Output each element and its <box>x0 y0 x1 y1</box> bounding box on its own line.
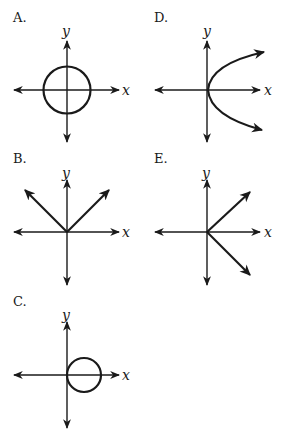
x-axis-label: x <box>122 367 130 383</box>
option-b-label: B. <box>13 151 27 166</box>
sideways-v-lower-ray <box>207 232 250 275</box>
y-axis-label: y <box>61 307 71 323</box>
sideways-v-upper-ray <box>207 192 250 232</box>
option-c-graph: C. x y <box>13 294 130 428</box>
y-axis-label: y <box>61 23 71 39</box>
v-right-ray <box>67 190 109 232</box>
y-axis-label: y <box>202 23 212 39</box>
option-d-label: D. <box>154 10 168 25</box>
graph-options-figure: A. x y D. x y B. x y E. x y C. <box>0 0 284 445</box>
option-a-label: A. <box>12 10 27 25</box>
parabola-upper-branch <box>208 52 264 90</box>
x-axis-label: x <box>264 82 272 98</box>
option-c-label: C. <box>13 294 27 309</box>
y-axis-label: y <box>61 165 71 181</box>
v-left-ray <box>25 190 67 232</box>
x-axis-label: x <box>122 224 130 240</box>
x-axis-label: x <box>264 224 272 240</box>
option-d-graph: D. x y <box>154 10 272 142</box>
parabola-lower-branch <box>208 90 262 130</box>
x-axis-label: x <box>122 82 130 98</box>
option-b-graph: B. x y <box>13 151 130 285</box>
option-e-graph: E. x y <box>154 151 272 285</box>
y-axis-label: y <box>201 165 211 181</box>
option-e-label: E. <box>154 151 168 166</box>
option-a-graph: A. x y <box>12 10 130 142</box>
